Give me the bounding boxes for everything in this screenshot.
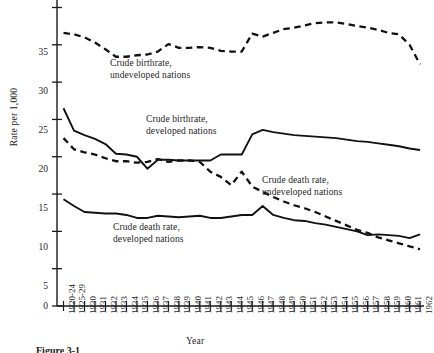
x-tick-label: 1944 bbox=[235, 296, 245, 314]
x-tick-label: 1957 bbox=[371, 296, 381, 314]
y-tick-label-0: 0 bbox=[22, 301, 48, 311]
series-annotation-3: Crude death rate,developed nations bbox=[113, 222, 184, 245]
x-tick-label: 1937 bbox=[161, 296, 171, 314]
x-tick-label: 1953 bbox=[329, 296, 339, 314]
series-annotation-1: Crude birthrate,developed nations bbox=[146, 114, 217, 137]
annotation-line-1: Crude death rate, bbox=[113, 222, 184, 234]
x-tick-label: 1954 bbox=[340, 296, 350, 314]
x-tick-label: 1940 bbox=[193, 296, 203, 314]
y-axis-title: Rate per 1,000 bbox=[9, 57, 19, 177]
x-tick-label: 1934 bbox=[130, 296, 140, 314]
x-tick-label: 1941 bbox=[203, 296, 213, 314]
x-tick-label: 1962 bbox=[424, 296, 434, 314]
series-annotation-0: Crude birthrate,undeveloped nations bbox=[110, 58, 190, 81]
x-tick-label: 1948 bbox=[277, 296, 287, 314]
x-tick-label: 1936 bbox=[151, 296, 161, 314]
x-tick-label: 1955 bbox=[350, 296, 360, 314]
annotation-line-1: Crude birthrate, bbox=[146, 114, 217, 126]
x-tick-label: 1933 bbox=[119, 296, 129, 314]
y-tick-label-25: 25 bbox=[22, 125, 48, 135]
y-tick-label-5: 5 bbox=[22, 281, 48, 291]
x-tick-label: 1959 bbox=[392, 296, 402, 314]
x-tick-label: 1958 bbox=[382, 296, 392, 314]
x-tick-label: 1952 bbox=[319, 296, 329, 314]
x-tick-label: 1942 bbox=[214, 296, 224, 314]
y-tick-label-15: 15 bbox=[22, 203, 48, 213]
x-tick-label: 1961 bbox=[413, 296, 423, 314]
x-tick-label: 1951 bbox=[308, 296, 318, 314]
y-tick-label-35: 35 bbox=[22, 47, 48, 57]
x-tick-label: 1931 bbox=[98, 296, 108, 314]
series-paths bbox=[64, 22, 421, 249]
y-tick-label-30: 30 bbox=[22, 86, 48, 96]
y-tick-label-20: 20 bbox=[22, 164, 48, 174]
x-tick-label: 1920-24 bbox=[67, 284, 77, 314]
figure-caption: Figure 3-1 bbox=[36, 345, 80, 353]
annotation-line-2: undeveloped nations bbox=[110, 70, 190, 82]
x-tick-label: 1932 bbox=[109, 296, 119, 314]
x-tick-label: 1960 bbox=[403, 296, 413, 314]
series-line-1 bbox=[64, 108, 421, 168]
annotation-line-1: Crude death rate, bbox=[262, 175, 342, 187]
x-tick-label: 1950 bbox=[298, 296, 308, 314]
series-annotation-2: Crude death rate,undeveloped nations bbox=[262, 175, 342, 198]
x-tick-label: 1930 bbox=[88, 296, 98, 314]
annotation-line-2: developed nations bbox=[146, 126, 217, 138]
y-tick-label-10: 10 bbox=[22, 242, 48, 252]
x-tick-label: 1946 bbox=[256, 296, 266, 314]
x-tick-label: 1935 bbox=[140, 296, 150, 314]
annotation-line-2: undeveloped nations bbox=[262, 187, 342, 199]
x-tick-label: 1945 bbox=[245, 296, 255, 314]
x-tick-label: 1956 bbox=[361, 296, 371, 314]
x-axis-title: Year bbox=[186, 336, 204, 346]
x-tick-label: 1938 bbox=[172, 296, 182, 314]
x-tick-label: 1939 bbox=[182, 296, 192, 314]
annotation-line-1: Crude birthrate, bbox=[110, 58, 190, 70]
x-tick-label: 1943 bbox=[224, 296, 234, 314]
x-tick-label: 1925-29 bbox=[77, 284, 87, 314]
x-tick-label: 1947 bbox=[266, 296, 276, 314]
annotation-line-2: developed nations bbox=[113, 234, 184, 246]
x-tick-label: 1949 bbox=[287, 296, 297, 314]
